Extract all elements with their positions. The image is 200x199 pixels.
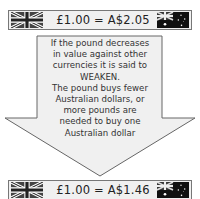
explanation-line: Australian dollar	[38, 128, 162, 139]
explanation-line: currencies it is said to	[38, 60, 162, 71]
explanation-line: WEAKEN.	[38, 72, 162, 83]
explanation-line: in value against other	[38, 49, 162, 60]
australia-flag-icon	[157, 12, 189, 28]
explanation-line: Australian dollars, or	[38, 94, 162, 105]
uk-flag-icon	[11, 182, 43, 198]
top-rate-text: £1.00 = A$2.05	[53, 11, 153, 29]
explanation-line: If the pound decreases	[38, 38, 162, 49]
top-exchange-rate-bar: £1.00 = A$2.05	[8, 10, 192, 30]
australia-flag-icon	[157, 182, 189, 198]
explanation-line: The pound buys fewer	[38, 83, 162, 94]
explanation-line: more pounds are	[38, 105, 162, 116]
explanation-line: needed to buy one	[38, 116, 162, 127]
bottom-exchange-rate-bar: £1.00 = A$1.46	[8, 180, 192, 199]
uk-flag-icon	[11, 12, 43, 28]
bottom-rate-text: £1.00 = A$1.46	[53, 181, 153, 199]
explanation-text: If the pound decreases in value against …	[38, 38, 162, 139]
